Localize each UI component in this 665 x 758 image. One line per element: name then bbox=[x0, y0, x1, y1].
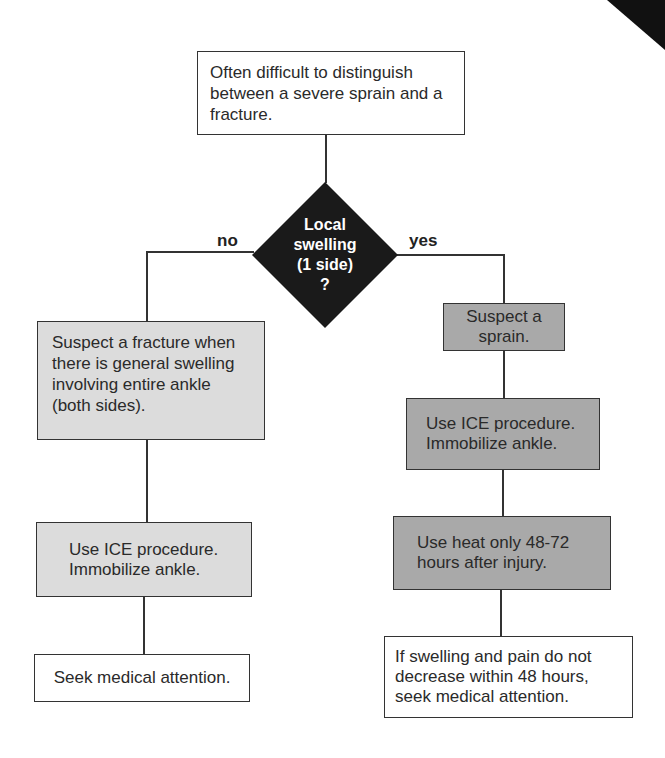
decision-text: Local swelling (1 side) ? bbox=[252, 182, 398, 328]
decision-diamond: Local swelling (1 side) ? bbox=[252, 182, 398, 328]
connector-yes-horizontal bbox=[396, 254, 504, 256]
yes-label: yes bbox=[409, 231, 437, 251]
yes-step-2: Use ICE procedure. Immobilize ankle. bbox=[406, 398, 600, 470]
connector-yes-3-4 bbox=[500, 590, 502, 637]
connector-yes-vertical bbox=[503, 254, 505, 304]
yes-step-4-text: If swelling and pain do not decrease wit… bbox=[395, 647, 592, 706]
decision-line-3: (1 side) bbox=[297, 255, 353, 275]
decision-line-1: Local bbox=[304, 215, 346, 235]
connector-yes-1-2 bbox=[503, 351, 505, 399]
yes-step-4: If swelling and pain do not decrease wit… bbox=[384, 636, 633, 718]
no-label: no bbox=[217, 231, 238, 251]
start-box: Often difficult to distinguish between a… bbox=[197, 51, 465, 135]
yes-step-1-text: Suspect a sprain. bbox=[464, 307, 544, 347]
no-step-3-text: Seek medical attention. bbox=[54, 668, 231, 688]
no-step-1: Suspect a fracture when there is general… bbox=[37, 321, 265, 440]
yes-step-3-text: Use heat only 48-72 hours after injury. bbox=[417, 533, 587, 573]
connector-start-decision bbox=[325, 134, 327, 183]
decision-line-2: swelling bbox=[293, 235, 356, 255]
yes-step-2-text: Use ICE procedure. Immobilize ankle. bbox=[426, 414, 580, 454]
page-corner-decoration bbox=[607, 0, 665, 50]
no-step-3: Seek medical attention. bbox=[34, 654, 250, 702]
connector-no-2-3 bbox=[143, 597, 145, 655]
no-step-2-text: Use ICE procedure. Immobilize ankle. bbox=[69, 540, 219, 580]
connector-no-horizontal bbox=[146, 251, 254, 253]
connector-no-vertical bbox=[146, 251, 148, 321]
connector-no-1-2 bbox=[146, 440, 148, 523]
start-text: Often difficult to distinguish between a… bbox=[210, 63, 443, 124]
no-step-1-text: Suspect a fracture when there is general… bbox=[52, 333, 235, 415]
yes-step-1: Suspect a sprain. bbox=[443, 303, 565, 351]
connector-yes-2-3 bbox=[502, 470, 504, 517]
no-step-2: Use ICE procedure. Immobilize ankle. bbox=[36, 522, 252, 597]
decision-line-4: ? bbox=[320, 275, 330, 295]
yes-step-3: Use heat only 48-72 hours after injury. bbox=[393, 516, 611, 590]
